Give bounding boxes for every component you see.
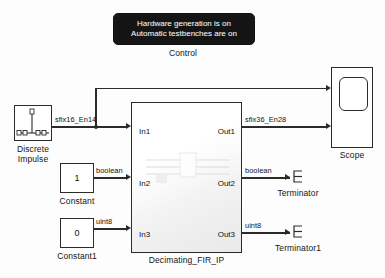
terminator-label: Terminator: [268, 188, 328, 198]
signal-label-sfix16-en14: sfix16_En14: [55, 116, 96, 124]
control-block-label: Control: [113, 48, 253, 58]
terminator1-icon[interactable]: [292, 225, 303, 238]
wire-constant-to-in2: [94, 177, 126, 178]
signal-label-boolean-out: boolean: [245, 167, 272, 175]
control-line-2: Automatic testbenches are on: [131, 29, 237, 39]
port-in1: In1: [139, 127, 150, 136]
constant-label: Constant: [47, 196, 107, 206]
arrow-in1: [126, 123, 131, 129]
discrete-impulse-icon: [15, 106, 51, 140]
arrow-scope-in2: [326, 123, 331, 129]
wire-out2-to-terminator: [242, 177, 290, 178]
terminator-icon[interactable]: [292, 170, 303, 183]
discrete-impulse-block[interactable]: [14, 105, 52, 141]
scope-label: Scope: [331, 150, 373, 160]
control-block[interactable]: Hardware generation is on Automatic test…: [113, 13, 255, 45]
arrow-terminator: [285, 174, 290, 180]
constant1-block[interactable]: 0: [60, 218, 94, 248]
scope-screen-icon: [339, 77, 368, 111]
signal-label-uint8-out: uint8: [245, 222, 261, 230]
arrow-terminator1: [285, 229, 290, 235]
port-in3: In3: [139, 230, 150, 239]
control-line-1: Hardware generation is on: [137, 19, 231, 29]
signal-label-boolean-in: boolean: [96, 167, 123, 175]
decimating-fir-ip-label: Decimating_FIR_IP: [131, 255, 242, 265]
terminator1-label: Terminator1: [265, 243, 331, 253]
arrow-scope-in1: [326, 85, 331, 91]
simulink-canvas: Hardware generation is on Automatic test…: [0, 0, 385, 278]
discrete-impulse-label-line-2: Impulse: [6, 154, 60, 164]
scope-block[interactable]: [331, 67, 373, 148]
wire-constant1-to-in3: [94, 228, 126, 229]
wire-impulse-to-in1: [52, 126, 126, 127]
constant1-value: 0: [74, 228, 79, 238]
wire-branch-to-scope: [95, 88, 326, 89]
port-in2: In2: [139, 179, 150, 188]
signal-label-uint8-in: uint8: [96, 218, 112, 226]
decimating-fir-ip-block[interactable]: In1 In2 In3 Out1 Out2 Out3: [131, 102, 242, 253]
constant1-label: Constant1: [44, 251, 110, 261]
wire-out1-to-scope: [242, 126, 326, 127]
arrow-in2: [126, 174, 131, 180]
arrow-in3: [126, 225, 131, 231]
port-out3: Out3: [218, 230, 235, 239]
port-out2: Out2: [218, 179, 235, 188]
signal-label-sfix36-en28: sfix36_En28: [245, 116, 286, 124]
constant-block[interactable]: 1: [60, 163, 94, 193]
wire-out3-to-terminator1: [242, 232, 290, 233]
constant-value: 1: [74, 173, 79, 183]
port-out1: Out1: [218, 127, 235, 136]
discrete-impulse-label-line-1: Discrete: [6, 144, 60, 154]
